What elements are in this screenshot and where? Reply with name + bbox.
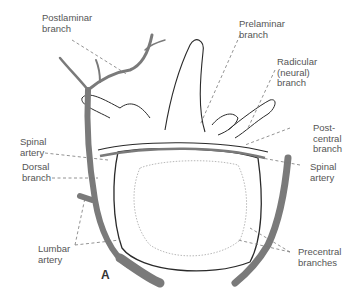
- lumbar-stub: [80, 196, 92, 200]
- label-lumbar-artery: Lumbar artery: [38, 244, 70, 265]
- panel-letter: A: [101, 268, 110, 282]
- left-transverse-process: [82, 95, 150, 118]
- label-spinal-artery-right: Spinal artery: [310, 162, 336, 183]
- upper-branch-left: [60, 58, 88, 90]
- label-precentral-branches: Precentral branches: [298, 247, 341, 268]
- label-prelaminar-branch: Prelaminar branch: [239, 19, 285, 40]
- left-spinal-artery-trunk: [87, 90, 128, 265]
- label-postlaminar-branch: Postlaminar branch: [42, 13, 92, 34]
- upper-branch-mid: [96, 60, 100, 82]
- label-postcentral-branch: Post- central branch: [313, 123, 342, 155]
- cancellous-bone: [134, 161, 247, 256]
- right-transverse-process: [228, 100, 275, 138]
- label-spinal-artery-left: Spinal artery: [20, 137, 46, 158]
- vertebral-arterial-supply-diagram: Postlaminar branch Prelaminar branch Rad…: [0, 0, 359, 295]
- spinous-process: [165, 40, 205, 132]
- right-lamina: [212, 114, 238, 135]
- label-radicular-branch: Radicular (neural) branch: [277, 57, 317, 89]
- lumbar-artery-left: [120, 258, 160, 283]
- leader-lines: [45, 35, 300, 252]
- label-dorsal-branch: Dorsal branch: [22, 162, 51, 183]
- posterior-arch-inner: [100, 149, 265, 158]
- vertebral-body: [114, 149, 261, 271]
